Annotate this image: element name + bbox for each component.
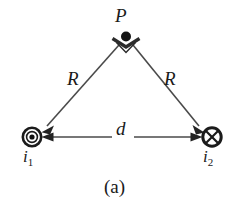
- label-current-i1: i1: [23, 148, 33, 168]
- label-current-i1-subscript: 1: [28, 156, 34, 168]
- label-point-p: P: [115, 6, 127, 25]
- edge-d-right-segment: [134, 133, 203, 142]
- physics-figure: P R R d i1 i2 (a): [0, 0, 244, 210]
- current-into-page-icon: [203, 128, 221, 146]
- apex-dot: [121, 32, 131, 42]
- current-out-of-page-icon: [23, 128, 41, 146]
- figure-caption: (a): [104, 177, 125, 196]
- wire1-center-dot: [29, 134, 34, 139]
- edge-R-right: [133, 45, 205, 135]
- edge-R-left-line: [47, 45, 119, 126]
- label-distance-r-left: R: [67, 69, 79, 88]
- label-current-i2: i2: [203, 148, 213, 168]
- label-distance-r-right: R: [164, 69, 176, 88]
- edge-d-left-segment: [42, 133, 113, 142]
- label-distance-d: d: [116, 119, 126, 138]
- label-current-i2-subscript: 2: [208, 156, 214, 168]
- point-dot-icon: [121, 32, 131, 42]
- edge-R-left: [42, 45, 120, 135]
